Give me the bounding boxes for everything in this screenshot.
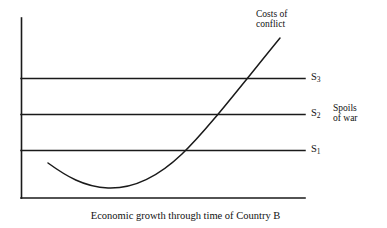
threshold-label-s2-subscript: 2 <box>317 111 321 120</box>
costs-of-conflict-line2: conflict <box>256 19 287 29</box>
threshold-label-s3: S3 <box>311 71 321 84</box>
costs-of-conflict-curve <box>48 38 280 188</box>
spoils-of-war-line1: Spoils <box>333 103 358 113</box>
threshold-label-s2: S2 <box>311 107 321 120</box>
threshold-label-s3-subscript: 3 <box>317 75 321 84</box>
chart-figure: Costs of conflict S3 S2 S1 Spoils of war… <box>0 0 387 228</box>
costs-of-conflict-line1: Costs of <box>256 9 287 19</box>
chart-plot-area <box>0 0 387 228</box>
spoils-of-war-line2: of war <box>333 113 358 123</box>
threshold-label-s1: S1 <box>311 143 321 156</box>
spoils-of-war-annotation: Spoils of war <box>333 103 358 124</box>
x-axis-caption: Economic growth through time of Country … <box>0 210 371 221</box>
costs-of-conflict-annotation: Costs of conflict <box>256 9 287 30</box>
threshold-label-s1-subscript: 1 <box>317 147 321 156</box>
